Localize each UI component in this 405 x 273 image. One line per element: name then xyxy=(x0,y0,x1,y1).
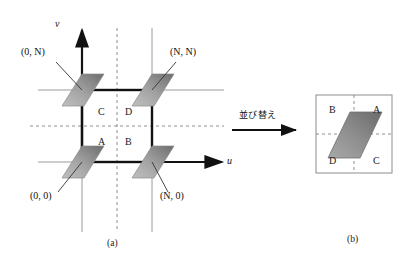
panel-b-center-tile xyxy=(328,112,382,158)
corner-label-origin: (0, 0) xyxy=(30,190,52,201)
panel-a-caption: (a) xyxy=(107,238,118,248)
corner-label-top-left: (0, N) xyxy=(21,46,45,57)
axis-u-label: u xyxy=(227,155,232,166)
panel-b-quadrant-b: B xyxy=(329,104,336,115)
figure-container: v u (0, N) (N, N) (0, 0) (N, 0) C D A B … xyxy=(0,0,405,273)
panel-a-thin-gridlines xyxy=(38,28,224,232)
panel-a-dashed-centerlines xyxy=(30,28,224,232)
panel-a-quadrant-b: B xyxy=(125,136,132,147)
panel-b-quadrant-a: A xyxy=(373,104,380,115)
panel-a-quadrant-d: D xyxy=(125,106,132,117)
panel-b-quadrant-c: C xyxy=(373,155,380,166)
corner-label-top-right: (N, N) xyxy=(170,46,196,57)
panel-b-quadrant-d: D xyxy=(329,155,336,166)
corner-label-bottom-right: (N, 0) xyxy=(160,190,184,201)
panel-b-caption: (b) xyxy=(347,234,358,244)
panel-a-quadrant-c: C xyxy=(98,106,105,117)
axis-v-label: v xyxy=(55,18,59,29)
panel-a-quadrant-a: A xyxy=(98,136,105,147)
figure-canvas xyxy=(0,0,405,273)
transform-label: 並び替え xyxy=(239,108,276,121)
